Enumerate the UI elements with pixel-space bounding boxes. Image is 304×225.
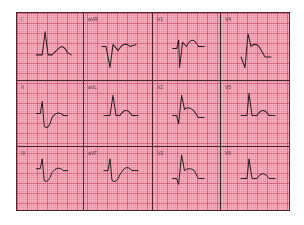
ecg-waveform [153, 147, 220, 210]
ecg-sheet: IaVRV1V4IIaVLV2V5IIIaVFV3V6 [16, 12, 290, 211]
lead-panel-v3: V3 [153, 147, 221, 210]
ecg-waveform [84, 13, 152, 80]
lead-panel-v2: V2 [153, 81, 221, 147]
lead-grid: IaVRV1V4IIaVLV2V5IIIaVFV3V6 [17, 13, 289, 210]
ecg-waveform [84, 147, 152, 210]
ecg-waveform [17, 13, 83, 80]
lead-panel-v4: V4 [221, 13, 289, 81]
ecg-waveform [17, 81, 83, 146]
lead-panel-avl: aVL [84, 81, 153, 147]
ecg-waveform [153, 13, 220, 80]
lead-panel-avf: aVF [84, 147, 153, 210]
ecg-waveform [221, 81, 289, 146]
ecg-waveform [84, 81, 152, 146]
ecg-waveform [221, 147, 289, 210]
lead-panel-iii: III [17, 147, 84, 210]
ecg-waveform [153, 81, 220, 146]
lead-panel-i: I [17, 13, 84, 81]
lead-panel-ii: II [17, 81, 84, 147]
lead-panel-v1: V1 [153, 13, 221, 81]
ecg-waveform [221, 13, 289, 80]
lead-panel-v5: V5 [221, 81, 289, 147]
ecg-waveform [17, 147, 83, 210]
lead-panel-v6: V6 [221, 147, 289, 210]
lead-panel-avr: aVR [84, 13, 153, 81]
